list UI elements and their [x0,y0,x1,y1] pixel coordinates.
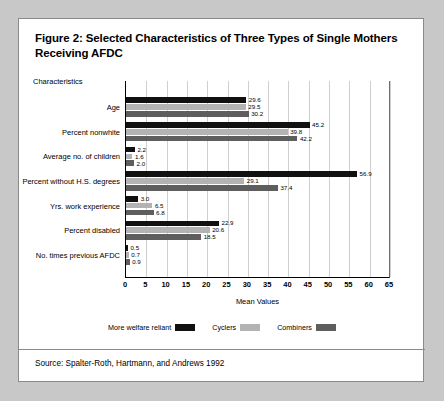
bar-value-label: 0.9 [130,259,141,265]
bar-value-label: 22.9 [219,220,234,226]
category-label: Percent nonwhite [19,120,120,145]
category-label: Average no. of children [19,145,120,170]
axis-header-label: Characteristics [33,77,83,86]
category-label: Yrs. work experience [19,194,120,219]
bar-value-label: 42.2 [297,136,312,142]
bar [126,160,134,166]
bar-value-label: 45.2 [310,122,325,128]
bar-group: 0.50.70.9 [126,243,425,268]
bar-value-label: 29.1 [244,178,259,184]
x-axis-label: Mean Values [125,297,390,306]
bar-value-label: 3.0 [138,196,149,202]
bar-value-label: 6.8 [154,210,165,216]
legend-swatch [240,324,260,331]
bar-group: 45.239.842.2 [126,120,425,145]
legend-swatch [175,324,195,331]
legend-item: Cyclers [212,323,260,332]
bar-value-label: 29.5 [246,104,261,110]
x-axis-ticks: 05101520253035404550556065 [125,280,390,294]
bar [126,147,135,153]
x-tick-label: 35 [263,280,271,289]
bar-row: Percent nonwhite45.239.842.2 [19,120,425,145]
bar-row: Percent disabled22.920.618.5 [19,218,425,243]
figure-title: Figure 2: Selected Characteristics of Th… [35,31,407,61]
chart-area: Characteristics Age29.629.530.2Percent n… [19,75,425,349]
x-tick-label: 45 [304,280,312,289]
x-tick-label: 40 [283,280,291,289]
x-tick-label: 0 [123,280,127,289]
bar [126,227,210,233]
bar-value-label: 30.2 [249,111,264,117]
bar [126,178,244,184]
bar-row: Age29.629.530.2 [19,95,425,120]
bar [126,122,310,128]
category-label: No. times previous AFDC [19,243,120,268]
bar-value-label: 2.2 [135,147,146,153]
bar-row: No. times previous AFDC0.50.70.9 [19,243,425,268]
bar-value-label: 6.5 [152,203,163,209]
bar-group: 3.06.56.8 [126,194,425,219]
source-divider [19,349,425,350]
x-tick-label: 25 [222,280,230,289]
bar-value-label: 39.8 [288,129,303,135]
source-text: Source: Spalter-Roth, Hartmann, and Andr… [35,359,224,368]
bar-value-label: 20.6 [210,227,225,233]
x-tick-label: 30 [243,280,251,289]
x-tick-label: 60 [365,280,373,289]
bar [126,196,138,202]
bar [126,104,246,110]
bar-value-label: 29.6 [246,97,261,103]
x-tick-label: 20 [202,280,210,289]
bar-value-label: 56.9 [357,171,372,177]
legend-label: Cyclers [212,323,236,332]
bar-value-label: 0.5 [128,245,139,251]
plot-wrapper: Characteristics Age29.629.530.2Percent n… [19,75,425,287]
category-label: Percent disabled [19,218,120,243]
bar [126,136,297,142]
x-tick-label: 55 [344,280,352,289]
x-tick-label: 15 [182,280,190,289]
x-tick-label: 50 [324,280,332,289]
x-tick-label: 5 [143,280,147,289]
x-tick-label: 10 [161,280,169,289]
bar [126,185,278,191]
bar-row: Average no. of children2.21.62.0 [19,145,425,170]
bar [126,129,288,135]
bar [126,234,201,240]
category-label: Percent without H.S. degrees [19,169,120,194]
bar [126,111,249,117]
x-tick-label: 65 [385,280,393,289]
bar-value-label: 37.4 [278,185,293,191]
legend-label: Combiners [277,323,312,332]
bar-group: 22.920.618.5 [126,218,425,243]
category-label: Age [19,95,120,120]
bar-group: 2.21.62.0 [126,145,425,170]
bar-group: 29.629.530.2 [126,95,425,120]
bar [126,97,246,103]
bar [126,210,154,216]
legend-item: More welfare reliant [108,323,195,332]
bar [126,203,152,209]
bar [126,221,219,227]
bar-value-label: 2.0 [134,161,145,167]
bar-value-label: 18.5 [201,234,216,240]
bar-row: Percent without H.S. degrees56.929.137.4 [19,169,425,194]
bar-value-label: 1.6 [132,154,143,160]
legend-item: Combiners [277,323,336,332]
legend-label: More welfare reliant [108,323,171,332]
figure-panel: Figure 2: Selected Characteristics of Th… [18,18,424,382]
bar [126,171,357,177]
chart-legend: More welfare reliantCyclersCombiners [19,323,425,332]
bar-row: Yrs. work experience3.06.56.8 [19,194,425,219]
bar-group: 56.929.137.4 [126,169,425,194]
legend-swatch [316,324,336,331]
bar-value-label: 0.7 [129,252,140,258]
